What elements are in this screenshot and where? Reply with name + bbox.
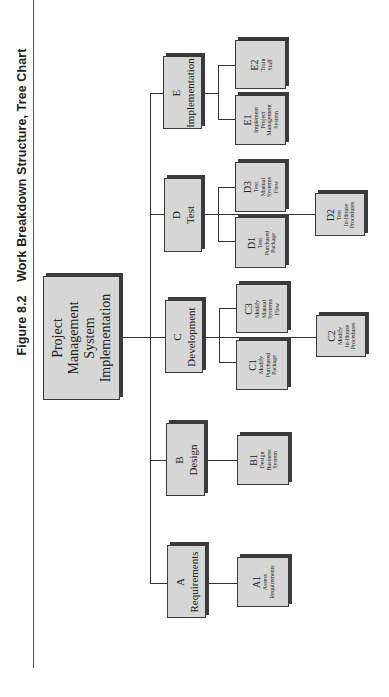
node-desc-line: Test	[256, 230, 263, 255]
node-code: E	[168, 58, 182, 128]
wbs-node-B: B Design	[166, 423, 205, 496]
connector-D-bracket	[218, 187, 219, 241]
wbs-node-C3: C3 Modify Manual Systems Flow	[236, 284, 288, 333]
node-desc-line: Manual	[261, 298, 268, 318]
root-line-3: System	[82, 294, 98, 383]
wbs-node-E2: E2 Train Staff	[235, 40, 286, 89]
root-line-4: Implementation	[98, 294, 114, 383]
connector-E-E1	[218, 119, 235, 120]
node-code: C1	[247, 353, 258, 378]
wbs-root-node: Project Management System Implementation	[43, 276, 120, 400]
wbs-node-E1: E1 Implement Project Management System	[235, 95, 286, 145]
node-desc-line: Flow	[273, 177, 280, 197]
connector-trunk-E	[150, 93, 164, 94]
connector-E-bracket	[218, 65, 219, 119]
wbs-node-A1: A1 Assess Requirements	[237, 557, 289, 607]
wbs-node-D3: D3 Test Manual Systems Flow	[235, 162, 286, 212]
node-desc-line: Modify	[258, 353, 265, 378]
node-label: Requirements	[188, 551, 200, 612]
node-desc-line: Purchased	[264, 353, 271, 378]
node-code: C	[170, 307, 184, 366]
connector-trunk-A	[150, 583, 167, 584]
figure-divider-rule	[33, 0, 34, 668]
node-label: Test	[184, 206, 196, 224]
node-desc-line: Project	[259, 104, 266, 135]
connector-D-D3	[218, 187, 235, 188]
node-desc-line: Train	[259, 58, 266, 71]
node-desc-line: Test	[336, 201, 343, 228]
node-code: B1	[248, 449, 259, 470]
node-desc-line: System	[272, 449, 279, 470]
connector-trunk	[150, 93, 151, 583]
connector-C-C1	[219, 362, 236, 363]
connector-E-out	[202, 93, 218, 94]
node-desc-line: System	[273, 104, 280, 135]
node-desc-line: Flow	[274, 298, 281, 318]
node-code: C2	[326, 323, 337, 350]
figure-title: Work Breakdown Structure, Tree Chart	[15, 49, 29, 282]
wbs-node-C1: C1 Modify Purchased Package	[236, 340, 288, 390]
node-desc-line: In-House	[343, 323, 350, 350]
node-code: A	[172, 551, 186, 612]
node-code: C3	[243, 298, 254, 318]
node-desc-line: Procedures	[349, 201, 356, 228]
node-code: D1	[245, 230, 256, 255]
node-code: E1	[242, 104, 253, 135]
node-code: B	[171, 444, 185, 475]
connector-C-C3	[219, 308, 236, 309]
node-desc-line: Business	[265, 449, 272, 470]
node-desc-line: In-House	[342, 201, 349, 228]
node-desc-line: Modify	[337, 323, 344, 350]
node-desc-line: Implement	[253, 104, 260, 135]
node-label: Design	[187, 444, 199, 475]
node-desc-line: Management	[266, 104, 273, 135]
wbs-node-B1: B1 Design Business System	[237, 435, 289, 485]
figure-number: Figure 8.2	[15, 295, 29, 355]
connector-root-trunk	[120, 337, 165, 338]
wbs-node-D1: D1 Test Purchased Package	[235, 217, 286, 268]
node-desc-line: Package	[271, 353, 278, 378]
wbs-node-D: D Test	[164, 178, 202, 252]
node-desc-line: Purchased	[263, 230, 270, 255]
node-desc-line: Modify	[254, 298, 261, 318]
node-desc-line: Design	[259, 449, 266, 470]
node-desc-line: Systems	[268, 298, 275, 318]
wbs-node-C: C Development	[165, 300, 203, 373]
connector-D-D1	[218, 241, 235, 242]
node-label: Implementation	[184, 58, 196, 128]
node-code: D3	[242, 177, 253, 197]
node-code: A1	[251, 565, 262, 598]
connector-A-A1	[206, 583, 237, 584]
wbs-node-D2: D2 Test In-House Procedures	[315, 193, 365, 236]
node-desc-line: Assess	[262, 565, 269, 598]
wbs-node-E: E Implementation	[163, 56, 202, 129]
node-desc-line: Test	[253, 177, 260, 197]
node-desc-line: Systems	[266, 177, 273, 197]
connector-C-bracket	[219, 308, 220, 363]
root-line-1: Project	[49, 294, 65, 383]
connector-B-B1	[205, 460, 237, 461]
node-desc-line: Procedures	[350, 323, 357, 350]
node-desc-line: Staff	[266, 58, 273, 71]
node-code: E2	[248, 58, 259, 71]
root-line-2: Management	[65, 294, 81, 383]
node-desc-line: Package	[269, 230, 276, 255]
node-desc-line: Requirements	[269, 565, 276, 598]
node-desc-line: Manual	[259, 177, 266, 197]
wbs-node-C2: C2 Modify In-House Procedures	[316, 315, 366, 357]
node-label: Development	[185, 307, 197, 366]
connector-trunk-B	[150, 460, 166, 461]
wbs-node-A: A Requirements	[167, 545, 206, 618]
connector-E-E2	[218, 65, 235, 66]
node-code: D	[169, 206, 183, 224]
node-code: D2	[325, 201, 336, 228]
connector-trunk-D	[150, 214, 164, 215]
